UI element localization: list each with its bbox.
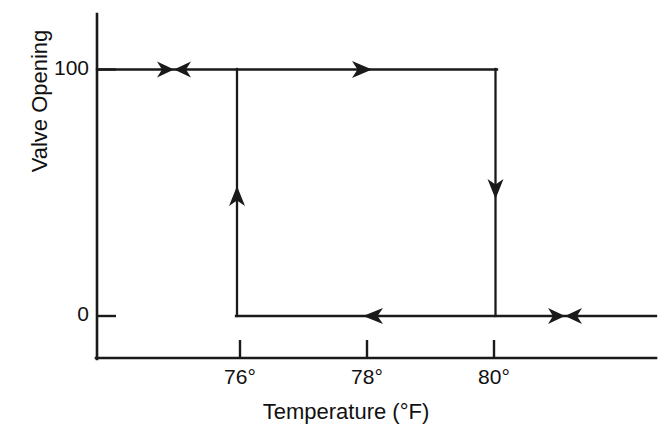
arrow-bottom-right-opposed <box>548 308 582 324</box>
chart-plot-area <box>0 0 672 441</box>
y-axis-tick-label-100: 100 <box>54 56 89 80</box>
y-axis-tick-label-0: 0 <box>77 302 89 326</box>
x-axis-title: Temperature (°F) <box>263 399 430 425</box>
x-axis-title-wrapper: Temperature (°F) <box>0 399 672 425</box>
x-axis-tick-label-80: 80° <box>478 365 510 389</box>
x-axis-tick-label-76: 76° <box>224 365 256 389</box>
y-axis-title: Valve Opening <box>27 0 53 211</box>
hysteresis-chart-figure: 100 0 76° 78° 80° Temperature (°F) Valve… <box>0 0 672 441</box>
x-axis-tick-label-78: 78° <box>351 365 383 389</box>
arrow-top-left-opposed <box>157 62 191 78</box>
